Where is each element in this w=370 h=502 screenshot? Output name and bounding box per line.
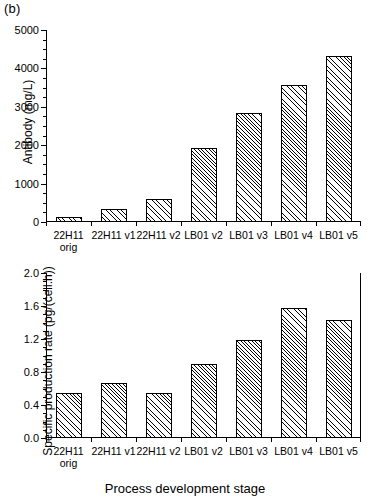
- category-label-line2: orig: [53, 242, 83, 254]
- spr-y-tick: [41, 306, 46, 307]
- spr-x-tick: [316, 438, 317, 442]
- spr-y-tick-label: 1.6: [24, 301, 39, 312]
- antibody-x-tick: [271, 222, 272, 226]
- spr-y-minor-tick: [43, 347, 46, 348]
- bar: [101, 383, 127, 438]
- category-label-line1: 22H11: [53, 230, 83, 242]
- spr-y-minor-tick: [43, 380, 46, 381]
- antibody-y-minor-tick: [43, 155, 46, 156]
- antibody-x-tick: [226, 222, 227, 226]
- x-axis-label: Process development stage: [0, 482, 370, 496]
- spr-y-minor-tick: [43, 389, 46, 390]
- spr-x-tick: [181, 438, 182, 442]
- spr-y-minor-tick: [43, 364, 46, 365]
- bar: [191, 148, 217, 222]
- spr-y-tick-label: 0.8: [24, 367, 39, 378]
- specific-production-rate-bar-chart: Specific production rate (pg/(cell.h)) 0…: [0, 260, 370, 502]
- antibody-y-minor-tick: [43, 88, 46, 89]
- category-label: LB01 v4: [274, 230, 313, 242]
- bar: [146, 393, 172, 438]
- category-label-line1: 22H11 v1: [91, 446, 135, 458]
- category-label: LB01 v2: [184, 230, 223, 242]
- bar: [101, 209, 127, 222]
- spr-y-tick: [41, 273, 46, 274]
- antibody-x-tick: [136, 222, 137, 226]
- antibody-y-minor-tick: [43, 40, 46, 41]
- category-label: LB01 v2: [184, 446, 223, 458]
- spr-y-tick-label: 0.4: [24, 400, 39, 411]
- category-label-line1: LB01 v4: [274, 230, 313, 242]
- antibody-y-tick: [41, 68, 46, 69]
- spr-y-tick: [41, 339, 46, 340]
- spr-y-minor-tick: [43, 290, 46, 291]
- category-label-line1: 22H11 v1: [91, 230, 135, 242]
- category-label-line1: 22H11 v2: [136, 446, 180, 458]
- antibody-y-axis: [46, 30, 47, 222]
- category-label-line1: LB01 v3: [229, 230, 268, 242]
- antibody-y-minor-tick: [43, 193, 46, 194]
- bar: [281, 308, 307, 438]
- spr-y-minor-tick: [43, 281, 46, 282]
- category-label-line1: 22H11: [53, 446, 83, 458]
- spr-y-minor-tick: [43, 314, 46, 315]
- category-label: LB01 v3: [229, 446, 268, 458]
- category-label-line1: 22H11 v2: [136, 230, 180, 242]
- antibody-bar-chart: Antibody (mg/L) 010002000300040005000 22…: [0, 0, 370, 260]
- bar: [146, 199, 172, 222]
- spr-x-tick: [136, 438, 137, 442]
- antibody-y-minor-tick: [43, 212, 46, 213]
- category-label-line1: LB01 v3: [229, 446, 268, 458]
- antibody-y-minor-tick: [43, 174, 46, 175]
- category-label: LB01 v3: [229, 230, 268, 242]
- spr-x-tick: [46, 438, 47, 442]
- category-label-line2: orig: [53, 458, 83, 470]
- spr-y-minor-tick: [43, 356, 46, 357]
- antibody-y-tick: [41, 145, 46, 146]
- category-label: 22H11 v2: [136, 446, 180, 458]
- spr-y-tick: [41, 405, 46, 406]
- spr-y-tick-label: 0.0: [24, 433, 39, 444]
- bar: [326, 320, 352, 438]
- category-label-line1: LB01 v5: [319, 446, 358, 458]
- category-label: 22H11 v1: [91, 446, 135, 458]
- antibody-y-minor-tick: [43, 116, 46, 117]
- category-label: LB01 v5: [319, 230, 358, 242]
- antibody-x-tick: [181, 222, 182, 226]
- bar: [236, 340, 262, 438]
- category-label: 22H11orig: [53, 230, 83, 253]
- antibody-y-minor-tick: [43, 203, 46, 204]
- antibody-y-tick-label: 5000: [15, 25, 39, 36]
- spr-y-minor-tick: [43, 298, 46, 299]
- spr-x-tick: [271, 438, 272, 442]
- spr-x-tick: [360, 438, 361, 442]
- spr-y-axis: [46, 273, 47, 438]
- spr-y-tick-label: 1.2: [24, 334, 39, 345]
- antibody-x-tick: [316, 222, 317, 226]
- antibody-y-tick-label: 3000: [15, 101, 39, 112]
- category-label: 22H11orig: [53, 446, 83, 469]
- spr-y-tick-label: 2.0: [24, 268, 39, 279]
- antibody-y-tick-label: 1000: [15, 178, 39, 189]
- spr-y-minor-tick: [43, 397, 46, 398]
- spr-y-minor-tick: [43, 422, 46, 423]
- antibody-x-tick: [91, 222, 92, 226]
- spr-y-minor-tick: [43, 323, 46, 324]
- bar: [56, 217, 82, 222]
- category-label-line1: LB01 v4: [274, 446, 313, 458]
- antibody-y-tick: [41, 184, 46, 185]
- bar: [191, 364, 217, 438]
- antibody-y-tick-label: 2000: [15, 140, 39, 151]
- spr-y-minor-tick: [43, 331, 46, 332]
- category-label-line1: LB01 v2: [184, 230, 223, 242]
- spr-y-minor-tick: [43, 413, 46, 414]
- antibody-x-tick: [360, 222, 361, 226]
- bar: [236, 113, 262, 222]
- category-label: LB01 v5: [319, 446, 358, 458]
- category-label-line1: LB01 v5: [319, 230, 358, 242]
- antibody-y-minor-tick: [43, 97, 46, 98]
- antibody-y-tick-label: 0: [33, 217, 39, 228]
- antibody-y-minor-tick: [43, 59, 46, 60]
- category-label: 22H11 v1: [91, 230, 135, 242]
- category-label: 22H11 v2: [136, 230, 180, 242]
- antibody-y-minor-tick: [43, 78, 46, 79]
